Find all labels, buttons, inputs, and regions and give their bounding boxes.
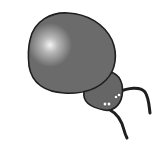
beetle-illustration bbox=[0, 0, 159, 153]
eye-dot bbox=[117, 93, 121, 97]
antenna-lower bbox=[110, 110, 127, 138]
eye-dot bbox=[107, 102, 111, 106]
beetle-body bbox=[28, 13, 115, 93]
eye-dot bbox=[103, 102, 107, 106]
